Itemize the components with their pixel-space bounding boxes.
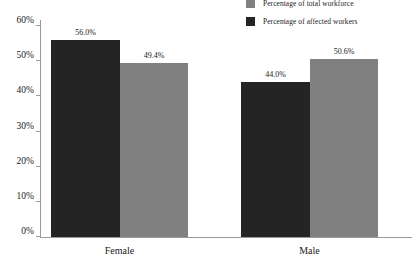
bar-male-total-workforce: 50.6% [310,59,378,237]
y-tick-label-3: 30% [0,122,34,132]
y-tick-label-4: 40% [0,87,34,97]
bar-value-male-affected-workers: 44.0% [265,71,286,79]
y-tick-3 [36,131,40,132]
bar-chart: Percentage of total workforce Percentage… [0,0,412,260]
bar-male-affected-workers: 44.0% [241,82,310,237]
bar-value-female-affected-workers: 56.0% [75,29,96,37]
y-tick-label-5: 50% [0,51,34,61]
bar-female-total-workforce: 49.4% [120,63,188,237]
y-tick-6 [36,25,40,26]
legend-item-total-workforce: Percentage of total workforce [246,0,412,11]
legend-swatch-total-workforce [246,0,255,8]
y-tick-label-6: 60% [0,16,34,26]
legend-label-total-workforce: Percentage of total workforce [263,0,354,8]
y-axis-line [40,20,41,238]
y-tick-label-0: 0% [0,227,34,237]
x-axis-label-female: Female [51,245,188,256]
bar-value-male-total-workforce: 50.6% [334,48,355,56]
bar-female-affected-workers: 56.0% [51,40,120,237]
y-tick-label-2: 20% [0,157,34,167]
x-axis-line [40,237,412,238]
y-tick-4 [36,95,40,96]
bar-value-female-total-workforce: 49.4% [144,52,165,60]
plot-area: 0% 10% 20% 30% 40% 50% 60% 56.0% 49.4% F… [40,20,412,238]
y-tick-1 [36,201,40,202]
y-tick-2 [36,166,40,167]
y-tick-5 [36,60,40,61]
y-tick-0 [36,236,40,237]
y-tick-label-1: 10% [0,192,34,202]
x-axis-label-male: Male [241,245,378,256]
